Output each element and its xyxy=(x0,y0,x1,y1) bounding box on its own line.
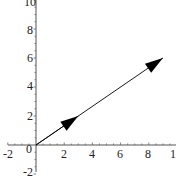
x-tick-label: 4 xyxy=(89,147,95,161)
y-tick-label: 6 xyxy=(27,51,33,65)
x-tick-label: 2 xyxy=(61,147,67,161)
arrowhead-icon xyxy=(145,58,163,73)
y-tick-label: 2 xyxy=(27,109,33,123)
x-tick-label: 10 xyxy=(170,147,176,161)
y-tick-label: 4 xyxy=(27,79,33,93)
x-tick-label: 6 xyxy=(117,147,123,161)
x-tick-label: -2 xyxy=(3,147,13,161)
vector-series xyxy=(36,58,163,145)
y-tick-label: 8 xyxy=(27,23,33,37)
y-tick-label: -2 xyxy=(23,165,33,178)
vector-2-line xyxy=(36,58,163,145)
vector-plot: -2 2 4 6 8 10 10 8 6 4 2 -2 0 xyxy=(0,0,176,178)
y-tick-label: 10 xyxy=(24,0,36,9)
origin-label: 0 xyxy=(26,142,32,156)
x-tick-label: 8 xyxy=(145,147,151,161)
